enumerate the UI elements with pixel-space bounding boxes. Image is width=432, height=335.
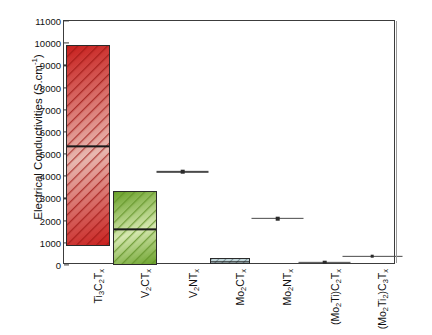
y-axis-tick-2000: 2000 (40, 215, 64, 226)
y-axis-tick-3000: 3000 (40, 193, 64, 204)
x-axis-tick-label-Ti3C2Tx: Ti3C2Tx (92, 269, 106, 303)
y-axis-tick-label: 2000 (40, 215, 64, 226)
y-axis-tick-mark (64, 43, 69, 44)
point-marker-Mo2NTx[interactable] (277, 218, 278, 219)
label-subscript: x (286, 269, 295, 273)
x-axis-tick-label-(Mo2Ti)C2Tx: (Mo2Ti)C2Tx (329, 269, 343, 325)
point-marker-V2NTx[interactable] (182, 171, 183, 172)
label-subscript: 2 (381, 307, 390, 311)
label-subscript: x (97, 269, 106, 273)
data-point (370, 255, 374, 259)
x-axis-tick-label-(Mo2Ti2)C3Tx: (Mo2Ti2)C3Tx (376, 269, 390, 329)
y-axis-tick-label: 11000 (35, 16, 64, 27)
label-subscript: 3 (97, 291, 106, 295)
y-axis-tick-11000: 11000 (35, 16, 64, 27)
y-axis-tick-label: 0 (56, 260, 64, 271)
y-axis-tick-label: 7000 (40, 104, 64, 115)
label-subscript: 2 (334, 303, 343, 307)
y-axis-title-exponent: -1 (30, 58, 39, 65)
bar-median-line (114, 229, 156, 230)
label-subscript: 2 (191, 287, 200, 291)
plot-area: 0100020003000400050006000700080009000100… (63, 20, 395, 264)
label-text: T (329, 273, 341, 279)
y-axis-tick-5000: 5000 (40, 149, 64, 160)
label-text: CT (139, 273, 151, 287)
x-axis-tick-label-Mo2CTx: Mo2CTx (234, 269, 248, 306)
label-text: V (139, 291, 151, 298)
label-subscript: 2 (334, 279, 343, 283)
y-axis-tick-0: 0 (56, 260, 64, 271)
label-text: NT (281, 273, 293, 287)
label-subscript: 2 (239, 287, 248, 291)
point-marker-(Mo2Ti2)C3Tx[interactable] (372, 256, 373, 257)
y-axis-tick-label: 5000 (40, 149, 64, 160)
label-text: T (92, 273, 104, 279)
label-subscript: x (334, 269, 343, 273)
y-axis-tick-8000: 8000 (40, 82, 64, 93)
y-axis-tick-label: 3000 (40, 193, 64, 204)
label-subscript: x (381, 269, 390, 273)
y-axis-tick-label: 4000 (40, 171, 64, 182)
label-subscript: 2 (97, 279, 106, 283)
y-axis-tick-mark (64, 264, 69, 265)
y-axis-tick-label: 8000 (40, 82, 64, 93)
y-axis-tick-9000: 9000 (40, 60, 64, 71)
label-subscript: 2 (286, 287, 295, 291)
label-subscript: 2 (144, 287, 153, 291)
label-text: Ti)C (329, 283, 341, 302)
bar-Ti3C2Tx[interactable] (66, 45, 110, 246)
y-axis-tick-6000: 6000 (40, 126, 64, 137)
y-axis-tick-1000: 1000 (40, 237, 64, 248)
x-axis-tick-label-Mo2NTx: Mo2NTx (281, 269, 295, 306)
label-text: (Mo (376, 311, 388, 329)
y-axis-tick-label: 1000 (40, 237, 64, 248)
bar-median-line (211, 261, 249, 262)
y-axis-tick-10000: 10000 (35, 38, 64, 49)
label-text: Mo (234, 291, 246, 306)
data-point (181, 170, 185, 174)
label-text: (Mo (329, 307, 341, 325)
label-text: NT (187, 273, 199, 287)
y-axis-tick-label: 6000 (40, 126, 64, 137)
y-axis-tick-7000: 7000 (40, 104, 64, 115)
data-point (276, 217, 280, 221)
label-text: Ti (376, 299, 388, 307)
y-axis-tick-label: 10000 (35, 38, 64, 49)
label-text: V (187, 291, 199, 298)
point-marker-(Mo2Ti)C2Tx[interactable] (324, 262, 325, 263)
label-text: T (376, 273, 388, 279)
x-axis-tick-label-V2CTx: V2CTx (139, 269, 153, 298)
bar-V2CTx[interactable] (113, 191, 157, 265)
label-text: )C (376, 283, 388, 294)
label-text: Mo (281, 291, 293, 306)
label-subscript: x (144, 269, 153, 273)
y-axis-tick-mark (64, 20, 69, 21)
bar-median-line (67, 146, 109, 147)
label-subscript: x (239, 269, 248, 273)
label-subscript: 2 (381, 294, 390, 298)
label-subscript: x (191, 269, 200, 273)
bar-Mo2CTx[interactable] (210, 258, 250, 264)
chart-figure: Electrical Conductivities (S.cm-1) 01000… (0, 0, 432, 335)
label-subscript: 3 (381, 279, 390, 283)
label-text: CT (234, 273, 246, 287)
label-text: C (92, 283, 104, 291)
y-axis-tick-label: 9000 (40, 60, 64, 71)
label-text: Ti (92, 295, 104, 303)
x-axis-tick-label-V2NTx: V2NTx (187, 269, 201, 298)
y-axis-tick-4000: 4000 (40, 171, 64, 182)
data-point (323, 261, 327, 265)
y-axis-title-tail: ) (32, 54, 44, 58)
